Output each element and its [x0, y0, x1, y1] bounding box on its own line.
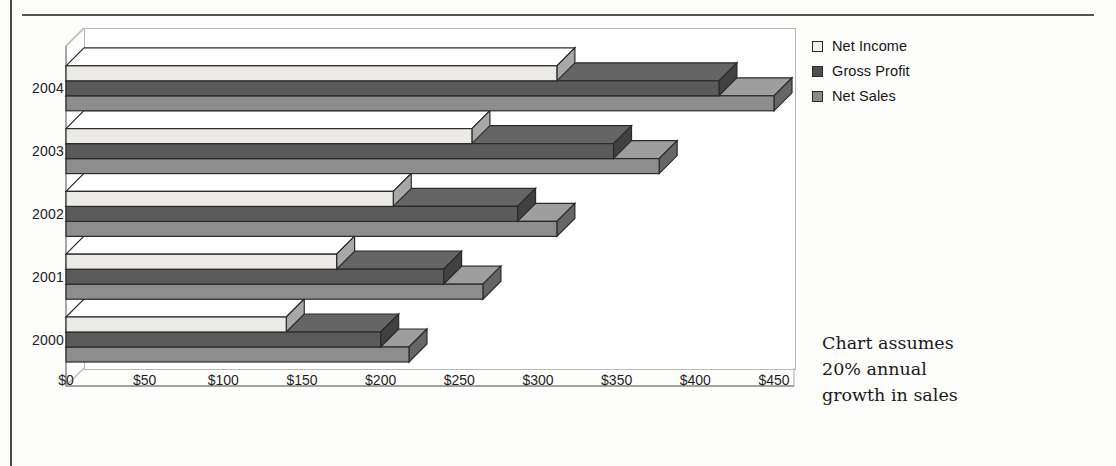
- legend-item[interactable]: Net Sales: [812, 88, 1052, 104]
- bar-front-face: [66, 81, 719, 96]
- bar-front-face: [66, 317, 286, 332]
- bar-front-face: [66, 221, 557, 236]
- annotation-line-1: Chart assumes: [822, 330, 1072, 356]
- bar-top-face: [66, 299, 304, 317]
- bar-front-face: [66, 347, 409, 362]
- legend-item[interactable]: Net Income: [812, 38, 1052, 54]
- bar-geometry: [46, 28, 826, 408]
- bar-front-face: [66, 144, 614, 159]
- x-tick-label: $150: [286, 372, 317, 388]
- x-tick-label: $50: [133, 372, 156, 388]
- chart-plot-area: 20002001200220032004 $0$50$100$150$200$2…: [46, 28, 806, 396]
- x-tick-label: $100: [208, 372, 239, 388]
- x-tick-label: $0: [58, 372, 74, 388]
- x-axis-tick-labels: $0$50$100$150$200$250$300$350$400$450: [46, 372, 806, 400]
- bar-front-face: [66, 332, 381, 347]
- x-tick-label: $400: [680, 372, 711, 388]
- bar-front-face: [66, 129, 472, 144]
- x-tick-label: $300: [522, 372, 553, 388]
- legend-swatch-icon: [812, 41, 823, 52]
- legend-swatch-icon: [812, 91, 823, 102]
- bar-front-face: [66, 66, 557, 81]
- chart-legend: Net IncomeGross ProfitNet Sales: [812, 38, 1052, 113]
- x-tick-label: $200: [365, 372, 396, 388]
- legend-item[interactable]: Gross Profit: [812, 63, 1052, 79]
- annotation-line-3: growth in sales: [822, 382, 1072, 408]
- page-left-rule: [10, 0, 12, 466]
- x-tick-label: $350: [601, 372, 632, 388]
- y-axis-category-label: 2002: [8, 206, 64, 222]
- bar-top-face: [66, 236, 355, 254]
- bar-top-face: [66, 173, 411, 191]
- y-axis-category-label: 2001: [8, 269, 64, 285]
- annotation-line-2: 20% annual: [822, 356, 1072, 382]
- bar-top-face: [66, 111, 490, 129]
- chart-page: 20002001200220032004 $0$50$100$150$200$2…: [0, 0, 1116, 466]
- bar-front-face: [66, 159, 659, 174]
- legend-item-label: Gross Profit: [832, 63, 910, 79]
- chart-annotation: Chart assumes 20% annual growth in sales: [822, 330, 1072, 408]
- bar-front-face: [66, 96, 774, 111]
- bar-front-face: [66, 269, 444, 284]
- legend-item-label: Net Sales: [832, 88, 896, 104]
- page-top-rule: [22, 14, 1094, 16]
- y-axis-category-label: 2004: [8, 80, 64, 96]
- chart-bars: 20002001200220032004: [46, 28, 806, 368]
- bar-front-face: [66, 254, 337, 269]
- bar-front-face: [66, 284, 483, 299]
- legend-swatch-icon: [812, 66, 823, 77]
- y-axis-category-label: 2000: [8, 332, 64, 348]
- bar-front-face: [66, 191, 393, 206]
- bar-front-face: [66, 206, 518, 221]
- y-axis-category-label: 2003: [8, 143, 64, 159]
- bar-top-face: [66, 48, 575, 66]
- legend-item-label: Net Income: [832, 38, 907, 54]
- x-tick-label: $250: [444, 372, 475, 388]
- x-tick-label: $450: [758, 372, 789, 388]
